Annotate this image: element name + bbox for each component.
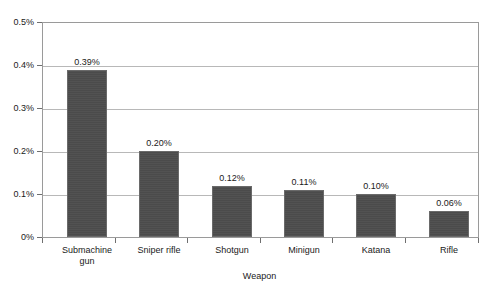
y-tick-label: 0.4% (0, 60, 34, 70)
x-axis-title: Weapon (0, 271, 497, 281)
x-tick-mark (478, 238, 479, 243)
x-tick-mark (332, 238, 333, 243)
data-label-submachine-gun: 0.39% (74, 57, 100, 67)
bar-texture (213, 187, 251, 236)
bar-texture (357, 195, 395, 236)
y-tick-label: 0.2% (0, 146, 34, 156)
bar-shotgun (212, 186, 252, 237)
bar-katana (356, 194, 396, 237)
data-label-katana: 0.10% (363, 181, 389, 191)
x-category-label-shotgun: Shotgun (215, 245, 249, 256)
data-label-shotgun: 0.12% (219, 173, 245, 183)
gridline-0.3 (43, 109, 478, 110)
gridline-0.1 (43, 195, 478, 196)
x-tick-mark (42, 238, 43, 243)
data-label-sniper-rifle: 0.20% (146, 138, 172, 148)
x-category-label-minigun: Minigun (288, 245, 320, 256)
bar-texture (68, 71, 106, 236)
data-label-minigun: 0.11% (292, 177, 317, 187)
bar-submachine-gun (67, 70, 107, 237)
bar-chart: 0.5% 0.4% 0.3% 0.2% 0.1% 0% 0.39% 0.20% … (0, 0, 497, 297)
y-tick-label: 0.3% (0, 103, 34, 113)
bar-texture (140, 152, 178, 236)
x-tick-mark (260, 238, 261, 243)
bar-minigun (284, 190, 324, 237)
gridline-0.2 (43, 152, 478, 153)
x-category-label-katana: Katana (362, 245, 391, 256)
y-tick-label: 0.5% (0, 17, 34, 27)
x-tick-mark (115, 238, 116, 243)
bar-sniper-rifle (139, 151, 179, 237)
bar-rifle (429, 211, 469, 237)
x-tick-mark (405, 238, 406, 243)
x-axis-title-text: Weapon (243, 271, 276, 281)
bar-texture (285, 191, 323, 236)
x-tick-mark (187, 238, 188, 243)
data-label-rifle: 0.06% (436, 198, 462, 208)
bar-texture (430, 212, 468, 236)
x-category-label-sniper-rifle: Sniper rifle (137, 245, 180, 256)
y-tick-label: 0.1% (0, 189, 34, 199)
y-tick-label: 0% (0, 232, 34, 242)
gridline-0.4 (43, 66, 478, 67)
plot-area (42, 22, 479, 238)
x-category-label-rifle: Rifle (440, 245, 458, 256)
x-category-label-submachine-gun: Submachine gun (62, 245, 112, 267)
